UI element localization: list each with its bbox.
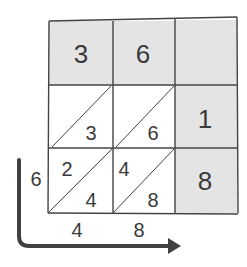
cell-2-2-ones: 8 [147,189,158,211]
bottom-label-2: 8 [133,219,144,241]
right-digit-3: 8 [198,166,212,196]
right-digit-2: 1 [198,104,212,134]
top-digit-2: 6 [136,39,150,69]
cell-2-2-tens: 4 [118,158,129,180]
cell-1-2-ones: 6 [147,122,158,144]
cell-1-1-ones: 3 [85,122,96,144]
lattice-diagram: 3 6 1 8 3 6 2 4 4 8 6 4 8 [0,0,247,267]
bottom-label-1: 4 [71,219,82,241]
top-cell-3 [175,20,237,85]
top-digit-1: 3 [74,39,88,69]
cell-2-1-ones: 4 [85,189,96,211]
cell-2-1-tens: 2 [61,158,72,180]
left-label: 6 [30,168,41,190]
